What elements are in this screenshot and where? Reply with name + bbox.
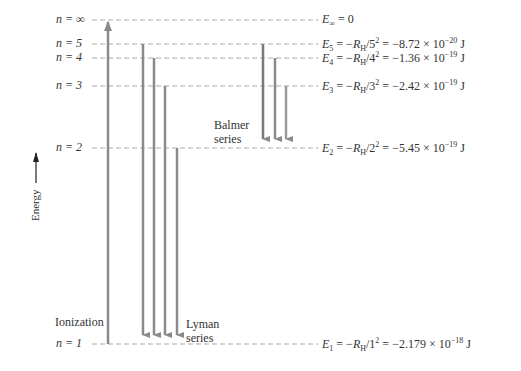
energy-subscript: 3 <box>329 86 333 95</box>
energy-unit: J <box>460 79 465 93</box>
energy-subscript: ∞ <box>329 19 335 28</box>
energy-unit: J <box>460 141 465 155</box>
energy-axis-label: Energy <box>29 189 41 221</box>
energy-exponent: −19 <box>445 78 458 87</box>
energy-exponent: −18 <box>451 336 464 345</box>
balmer-series-label: Balmer series <box>214 118 249 146</box>
ionization-label: Ionization <box>55 315 104 329</box>
energy-unit: J <box>466 337 471 351</box>
energy-mantissa: −1.36 × 10 <box>392 51 445 65</box>
lyman-label-line2: series <box>186 331 219 345</box>
energy-subscript: 4 <box>329 58 333 67</box>
energy-exponent: −20 <box>445 36 458 45</box>
energy-mantissa: −2.179 × 10 <box>392 337 451 351</box>
lyman-arrows <box>143 44 177 335</box>
energy-mantissa: −5.45 × 10 <box>392 141 445 155</box>
energy-exponent: −19 <box>445 50 458 59</box>
energy-label-4: E4 = −RH/42 = −1.36 × 10−19 J <box>322 50 465 67</box>
energy-unit: J <box>460 51 465 65</box>
energy-mantissa: −2.42 × 10 <box>392 79 445 93</box>
lyman-label-line1: Lyman <box>186 317 219 331</box>
energy-label-inf: E∞ = 0 <box>322 12 354 28</box>
balmer-label-line2: series <box>214 132 249 146</box>
level-label-5: n = 5 <box>56 36 82 51</box>
level-label-1: n = 1 <box>56 336 82 351</box>
level-label-4: n = 4 <box>56 50 82 65</box>
energy-label-3: E3 = −RH/32 = −2.42 × 10−19 J <box>322 78 465 95</box>
energy-label-1: E1 = −RH/12 = −2.179 × 10−18 J <box>322 336 471 353</box>
level-label-3: n = 3 <box>56 78 82 93</box>
balmer-label-line1: Balmer <box>214 118 249 132</box>
balmer-arrows <box>263 44 286 139</box>
energy-subscript: 2 <box>329 148 333 157</box>
energy-label-2: E2 = −RH/22 = −5.45 × 10−19 J <box>322 140 465 157</box>
lyman-series-label: Lyman series <box>186 317 219 345</box>
energy-mantissa: −8.72 × 10 <box>392 37 445 51</box>
level-label-2: n = 2 <box>56 140 82 155</box>
energy-value: 0 <box>348 12 354 26</box>
energy-exponent: −19 <box>445 140 458 149</box>
energy-subscript: 1 <box>329 344 333 353</box>
energy-unit: J <box>460 37 465 51</box>
level-label-inf: n = ∞ <box>56 12 85 27</box>
level-lines <box>92 20 318 344</box>
